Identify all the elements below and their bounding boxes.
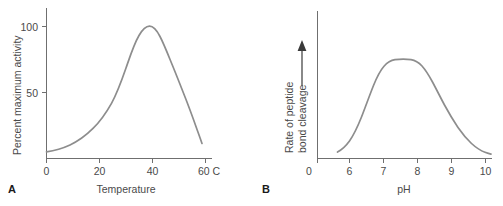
panel-b-letter: B [262, 184, 270, 195]
panel-a-x-ticklabel-0: 0 [44, 166, 50, 177]
panel-b-x-axis-title: pH [397, 183, 410, 195]
panel-a-temperature-chart: 100 50 0 20 40 60 C Temperature Percent … [0, 0, 252, 206]
panel-b-x-ticklabel-8: 8 [415, 166, 421, 177]
panel-a-x-ticklabel-40: 40 [147, 166, 159, 177]
panel-a-x-ticklabel-60: 60 C [198, 166, 220, 177]
panel-a-letter: A [8, 184, 16, 195]
panel-b-y-axis-title-line2: bond cleavage [296, 85, 308, 153]
panel-b-x-ticklabel-9: 9 [449, 166, 455, 177]
panel-b-x-ticklabel-7: 7 [381, 166, 387, 177]
panel-a-y-ticklabel-100: 100 [12, 21, 38, 32]
panel-b-ph-chart: 0 6 7 8 9 10 pH Rate of peptide bond cle… [252, 0, 503, 206]
panel-b-x-ticklabel-10: 10 [480, 166, 492, 177]
panel-a-y-axis-title: Percent maximum activity [11, 35, 23, 155]
enzyme-activity-figure: 100 50 0 20 40 60 C Temperature Percent … [0, 0, 503, 206]
panel-b-up-arrow-icon [298, 40, 307, 86]
panel-b-x-ticklabel-0: 0 [306, 166, 312, 177]
panel-a-x-ticklabel-20: 20 [94, 166, 106, 177]
panel-b-x-ticklabel-6: 6 [347, 166, 353, 177]
panel-b-rate-curve [338, 59, 492, 154]
panel-b-y-axis-title-line1: Rate of peptide [283, 82, 295, 153]
panel-a-x-axis-title: Temperature [97, 183, 156, 195]
panel-a-activity-curve [47, 26, 203, 152]
